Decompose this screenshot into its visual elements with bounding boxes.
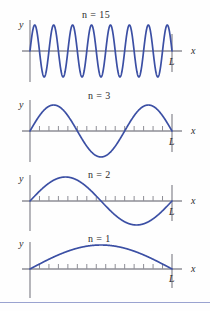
length-label-L: L	[168, 206, 175, 217]
x-axis-label: x	[190, 45, 196, 56]
length-label-L: L	[168, 273, 175, 284]
x-axis-label: x	[190, 195, 196, 206]
y-axis-label: y	[18, 173, 24, 184]
mode-label-n1: n = 1	[88, 233, 111, 244]
x-axis-label: x	[190, 125, 196, 136]
panel-n15: y x L n = 15	[0, 6, 210, 86]
y-axis-label: y	[18, 19, 24, 30]
x-axis-ticks	[39, 264, 162, 269]
mode-label-n15: n = 15	[82, 9, 110, 20]
panel-n3: y x L n = 3	[0, 86, 210, 166]
bottom-divider-rule	[0, 302, 210, 303]
y-axis-label: y	[18, 238, 24, 249]
x-axis-ticks	[39, 126, 162, 131]
panel-n2: y x L n = 2	[0, 163, 210, 235]
panel-n1: y x L n = 1	[0, 228, 210, 302]
mode-label-n3: n = 3	[88, 90, 111, 101]
waveform-n1	[30, 245, 172, 269]
length-label-L: L	[168, 136, 175, 147]
mode-label-n2: n = 2	[88, 169, 111, 180]
x-axis-label: x	[190, 263, 196, 274]
y-axis-label: y	[18, 99, 24, 110]
length-label-L: L	[168, 56, 175, 67]
standing-wave-figure: y x L n = 15 y x L n = 3	[0, 0, 210, 311]
